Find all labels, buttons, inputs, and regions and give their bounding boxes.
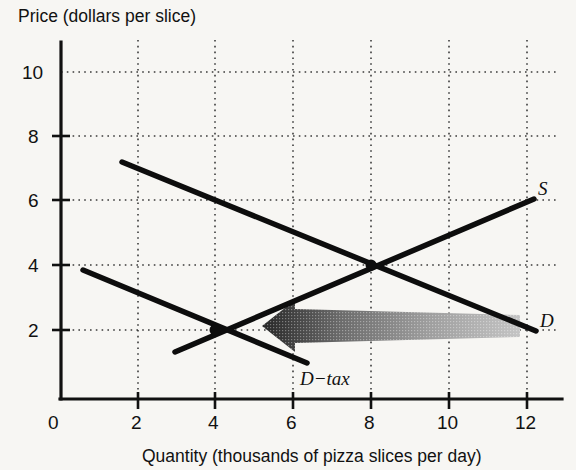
x-tick-label-0: 0 (48, 412, 59, 433)
x-tick-label-4: 4 (208, 412, 219, 433)
y-tick-label-10: 10 (22, 62, 43, 83)
chart-canvas: Price (dollars per slice) Quantity (thou… (0, 0, 576, 470)
y-tick-label-2: 2 (28, 320, 39, 341)
equilibrium-point-before-tax (366, 260, 377, 271)
x-tick-label-6: 6 (286, 412, 297, 433)
y-tick-label-8: 8 (28, 126, 39, 147)
demand-after-tax-curve-label: D−tax (299, 368, 350, 389)
x-tick-label-2: 2 (131, 412, 142, 433)
supply-demand-tax-chart: Price (dollars per slice) Quantity (thou… (0, 0, 576, 470)
supply-curve-label: S (538, 178, 548, 199)
y-axis-title: Price (dollars per slice) (18, 6, 196, 26)
x-axis-title: Quantity (thousands of pizza slices per … (142, 446, 481, 466)
x-tick-label-8: 8 (364, 412, 375, 433)
x-tick-label-12: 12 (515, 412, 536, 433)
demand-curve-label: D (539, 310, 554, 331)
y-tick-label-4: 4 (28, 255, 39, 276)
equilibrium-point-after-tax (210, 325, 221, 336)
y-tick-label-6: 6 (28, 190, 39, 211)
x-tick-label-10: 10 (437, 412, 458, 433)
